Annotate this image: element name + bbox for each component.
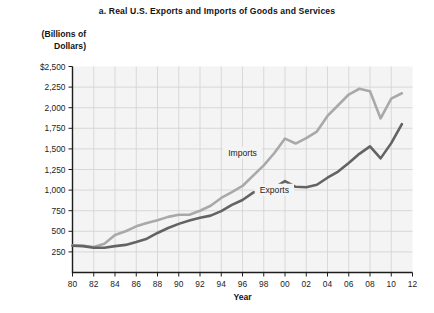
x-axis-tick-label: 82 — [89, 279, 99, 289]
y-axis-tick-label: 1,750 — [45, 123, 66, 133]
x-axis-caption: Year — [72, 292, 413, 302]
x-axis-tick-label: 02 — [302, 279, 312, 289]
y-axis-caption-line2: Dollars) — [8, 41, 86, 53]
x-axis-tick-label: 84 — [110, 279, 120, 289]
y-axis-tick-label: 1,500 — [45, 144, 66, 154]
y-axis-tick-label: $2,500 — [40, 62, 66, 72]
y-axis-tick-label: 2,250 — [45, 82, 66, 92]
y-axis-tick-label: 1,000 — [45, 185, 66, 195]
x-axis-tick-label: 88 — [153, 279, 163, 289]
x-axis-tick-label: 86 — [132, 279, 142, 289]
page-title: a. Real U.S. Exports and Imports of Good… — [0, 6, 434, 16]
y-axis-tick-label: 2,000 — [45, 103, 66, 113]
x-axis-tick-label: 10 — [387, 279, 397, 289]
y-axis-caption: (Billions of Dollars) — [8, 29, 86, 52]
x-axis-tick-label: 92 — [195, 279, 205, 289]
y-axis-caption-line1: (Billions of — [8, 29, 86, 41]
x-axis-tick-label: 96 — [238, 279, 248, 289]
x-axis-tick-label: 94 — [217, 279, 227, 289]
y-axis-tick-label: 750 — [52, 206, 66, 216]
x-axis-tick-label: 08 — [365, 279, 375, 289]
x-axis-tick-label: 06 — [344, 279, 354, 289]
x-axis-tick-label: 98 — [259, 279, 269, 289]
x-axis-tick-label: 04 — [323, 279, 333, 289]
series-label-imports: Imports — [228, 148, 257, 158]
x-axis-tick-label: 00 — [280, 279, 290, 289]
y-axis-tick-label: 500 — [52, 226, 66, 236]
series-label-exports: Exports — [260, 185, 289, 195]
chart-figure: a. Real U.S. Exports and Imports of Good… — [0, 0, 434, 313]
x-axis-tick-label: 90 — [174, 279, 184, 289]
y-axis-tick-label: 250 — [52, 247, 66, 257]
x-axis-tick-label: 12 — [408, 279, 418, 289]
y-axis-tick-label: 1,250 — [45, 165, 66, 175]
x-axis-tick-label: 80 — [68, 279, 78, 289]
